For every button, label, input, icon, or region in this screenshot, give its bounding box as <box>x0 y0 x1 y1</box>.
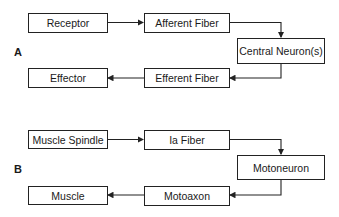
motoneuron-box: Motoneuron <box>237 155 325 180</box>
panel-a-label: A <box>14 46 22 58</box>
afferent-fiber-box: Afferent Fiber <box>144 13 230 33</box>
effector-box: Effector <box>28 68 108 88</box>
motoaxon-box: Motoaxon <box>144 186 230 206</box>
receptor-box: Receptor <box>28 13 108 33</box>
central-neuron-box: Central Neuron(s) <box>237 38 325 64</box>
efferent-fiber-box: Efferent Fiber <box>144 68 230 88</box>
ia-fiber-box: Ia Fiber <box>144 130 230 150</box>
muscle-spindle-box: Muscle Spindle <box>28 130 108 149</box>
muscle-box: Muscle <box>28 186 108 205</box>
panel-b-label: B <box>14 163 22 175</box>
